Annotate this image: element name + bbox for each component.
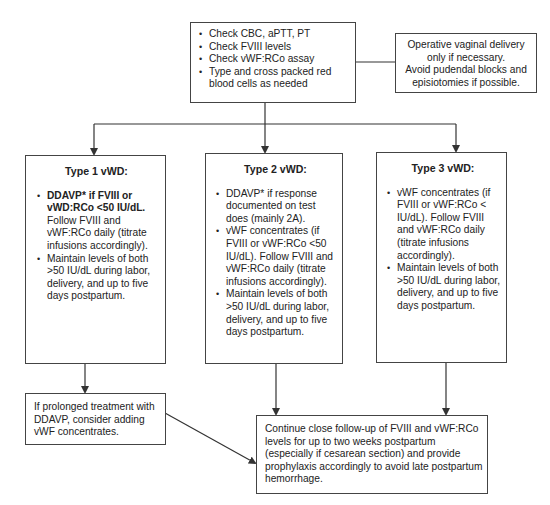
delivery-note-box: Operative vaginal delivery only if neces… — [395, 33, 537, 93]
list-item: vWF concentrates (if FVIII or vWF:RCo < … — [386, 187, 500, 263]
list-item: Maintain levels of both >50 IU/dL during… — [36, 253, 157, 303]
list-item: Check CBC, aPTT, PT — [198, 28, 349, 41]
ddavp-note-box: If prolonged treatment with DDAVP, consi… — [25, 393, 166, 445]
list-item: Check FVIII levels — [198, 41, 349, 54]
initial-checks-box: Check CBC, aPTT, PT Check FVIII levels C… — [190, 22, 356, 103]
type3-title: Type 3 vWD: — [386, 162, 500, 175]
list-item: DDAVP* if response documented on test do… — [215, 188, 336, 226]
list-item: Maintain levels of both >50 IU/dL during… — [215, 288, 336, 338]
type1-title: Type 1 vWD: — [36, 165, 157, 178]
followup-box: Continue close follow-up of FVIII and vW… — [256, 415, 488, 494]
list-item: DDAVP* if FVIII or vWD:RCo <50 IU/dL. Fo… — [36, 190, 157, 253]
list-item: Maintain levels of both >50 IU/dL during… — [386, 262, 500, 312]
note-line: episiotomies if possible. — [400, 77, 532, 90]
type2-list: DDAVP* if response documented on test do… — [215, 188, 336, 339]
followup-text: Continue close follow-up of FVIII and vW… — [265, 423, 483, 486]
note-line: Operative vaginal delivery — [400, 39, 532, 52]
type3-box: Type 3 vWD: vWF concentrates (if FVIII o… — [376, 152, 507, 363]
note-line: only if necessary. — [400, 52, 532, 65]
list-item: vWF concentrates (if FVIII or vWF:RCo <5… — [215, 225, 336, 288]
ddavp-note-text: If prolonged treatment with DDAVP, consi… — [34, 401, 159, 439]
type2-box: Type 2 vWD: DDAVP* if response documente… — [205, 153, 343, 364]
list-item-text: Maintain levels of both >50 IU/dL during… — [47, 253, 150, 302]
type1-list: DDAVP* if FVIII or vWD:RCo <50 IU/dL. Fo… — [36, 190, 157, 303]
type1-box: Type 1 vWD: DDAVP* if FVIII or vWD:RCo <… — [25, 155, 166, 364]
list-item: Check vWF:RCo assay — [198, 53, 349, 66]
type2-title: Type 2 vWD: — [215, 163, 336, 176]
note-line: Avoid pudendal blocks and — [400, 64, 532, 77]
type3-list: vWF concentrates (if FVIII or vWF:RCo < … — [386, 187, 500, 313]
list-item: Type and cross packed red blood cells as… — [198, 66, 349, 91]
initial-checks-list: Check CBC, aPTT, PT Check FVIII levels C… — [198, 28, 349, 91]
list-item-bold: DDAVP* if FVIII or vWD:RCo <50 IU/dL. — [47, 190, 145, 214]
connector-ddavp-to-followup — [165, 413, 255, 463]
list-item-text: Follow FVIII and vWF:RCo daily (titrate … — [47, 215, 148, 251]
